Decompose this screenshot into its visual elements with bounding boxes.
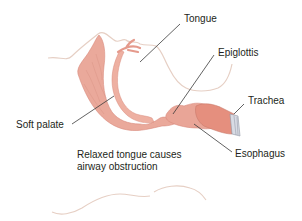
label-tongue: Tongue — [184, 13, 217, 25]
tongue-leader — [140, 24, 180, 62]
label-trachea: Trachea — [248, 95, 284, 107]
neck-outline — [154, 186, 206, 200]
anatomy-illustration — [0, 0, 302, 221]
label-soft-palate: Soft palate — [16, 119, 64, 131]
trachea-leader — [234, 104, 244, 114]
caption: Relaxed tongue causes airway obstruction — [77, 149, 182, 173]
tongue-shape — [112, 50, 154, 123]
caption-line-2: airway obstruction — [77, 161, 182, 173]
chin-outline — [52, 194, 150, 214]
airway-diagram: Tongue Epiglottis Trachea Soft palate Es… — [0, 0, 302, 221]
label-esophagus: Esophagus — [235, 148, 285, 160]
caption-line-1: Relaxed tongue causes — [77, 149, 182, 161]
label-epiglottis: Epiglottis — [218, 47, 259, 59]
